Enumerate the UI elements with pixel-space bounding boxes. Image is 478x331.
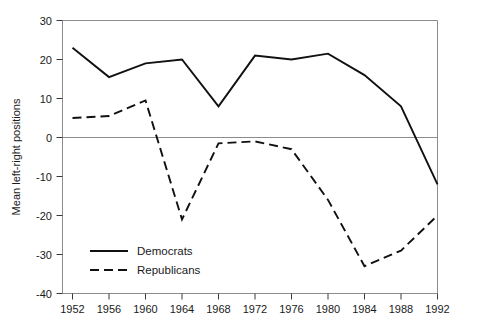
line-chart: 30 20 10 0 -10 -20 -30 -40 1952 1956 <box>0 0 478 331</box>
x-axis-label-1972: 1972 <box>243 303 267 315</box>
x-axis-label-1980: 1980 <box>316 303 340 315</box>
x-axis-label-1964: 1964 <box>170 303 194 315</box>
x-axis-label-1968: 1968 <box>206 303 230 315</box>
y-axis-label-minus40: -40 <box>36 288 52 300</box>
x-axis-label-1960: 1960 <box>133 303 157 315</box>
y-tick-marks <box>57 21 63 294</box>
y-tick-labels: 30 20 10 0 -10 -20 -30 -40 <box>36 15 52 300</box>
y-axis-label-minus10: -10 <box>36 171 52 183</box>
x-tick-marks <box>73 294 438 300</box>
y-axis-label-minus20: -20 <box>36 210 52 222</box>
x-tick-labels: 1952 1956 1960 1964 1968 1972 1976 1980 … <box>60 303 449 315</box>
legend-item-democrats: Democrats <box>90 245 193 257</box>
x-axis-label-1976: 1976 <box>279 303 303 315</box>
y-axis-label-20: 20 <box>40 54 52 66</box>
legend-label-democrats: Democrats <box>137 245 193 257</box>
y-axis-label-30: 30 <box>40 15 52 27</box>
x-axis-label-1988: 1988 <box>389 303 413 315</box>
x-axis-label-1952: 1952 <box>60 303 84 315</box>
y-axis-label-minus30: -30 <box>36 249 52 261</box>
y-axis-label-0: 0 <box>46 132 52 144</box>
x-axis-label-1956: 1956 <box>97 303 121 315</box>
x-axis-label-1992: 1992 <box>425 303 449 315</box>
y-axis-title: Mean left-right positions <box>10 98 22 215</box>
chart-container: 30 20 10 0 -10 -20 -30 -40 1952 1956 <box>0 0 478 331</box>
y-axis-label-10: 10 <box>40 93 52 105</box>
x-axis-label-1984: 1984 <box>352 303 376 315</box>
legend-item-republicans: Republicans <box>90 264 201 276</box>
series-line-democrats <box>73 48 438 185</box>
series-line-republicans <box>73 100 438 266</box>
legend-label-republicans: Republicans <box>137 264 201 276</box>
chart-legend: Democrats Republicans <box>90 245 201 276</box>
